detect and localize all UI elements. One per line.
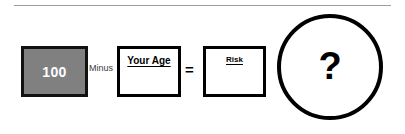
your-age-box[interactable]: Your Age xyxy=(117,46,181,97)
question-mark-icon: ? xyxy=(281,47,379,85)
risk-box[interactable]: Risk xyxy=(203,46,266,97)
top-divider-rule xyxy=(14,5,391,6)
base-value-box: 100 xyxy=(21,46,88,97)
risk-label: Risk xyxy=(206,56,263,64)
question-circle: ? xyxy=(277,14,383,120)
equals-operator-label: = xyxy=(185,62,194,77)
diagram-canvas: 100 Minus Your Age = Risk ? xyxy=(0,0,405,134)
base-value-text: 100 xyxy=(24,65,85,79)
your-age-label: Your Age xyxy=(120,56,178,66)
minus-operator-label: Minus xyxy=(89,64,113,73)
